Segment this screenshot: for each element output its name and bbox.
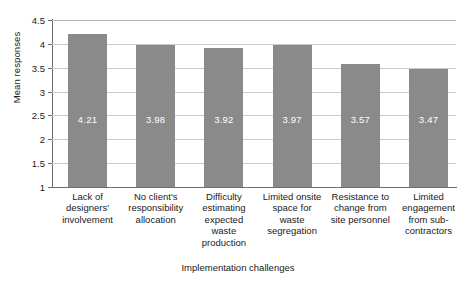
- gridline: [52, 92, 456, 93]
- gridline: [52, 68, 456, 69]
- plot-area: 11.522.533.544.54.213.983.923.973.573.47: [52, 20, 456, 187]
- y-tick-mark: [48, 20, 52, 21]
- x-category-label: Limitedengagementfrom sub-contractors: [390, 191, 468, 237]
- y-tick-label: 2.5: [32, 110, 45, 121]
- y-tick-label: 1.5: [32, 158, 45, 169]
- gridline: [52, 44, 456, 45]
- bar-value-label: 3.98: [136, 114, 175, 125]
- y-tick-mark: [48, 187, 52, 188]
- x-axis-line: [52, 187, 457, 188]
- bar-value-label: 4.21: [68, 114, 107, 125]
- y-axis-title: Mean responses: [11, 8, 22, 128]
- bar-value-label: 3.57: [341, 114, 380, 125]
- bar[interactable]: [341, 64, 380, 187]
- y-tick-mark: [48, 92, 52, 93]
- x-axis-title: Implementation challenges: [0, 262, 476, 273]
- y-tick-label: 4.5: [32, 15, 45, 26]
- bar-value-label: 3.92: [204, 114, 243, 125]
- y-tick-mark: [48, 44, 52, 45]
- y-tick-label: 3.5: [32, 62, 45, 73]
- x-category-label: No client'sresponsibilityallocation: [117, 191, 195, 225]
- y-tick-label: 3: [40, 86, 45, 97]
- y-tick-label: 1: [40, 182, 45, 193]
- gridline: [52, 20, 456, 21]
- gridline: [52, 139, 456, 140]
- y-tick-mark: [48, 68, 52, 69]
- y-tick-mark: [48, 163, 52, 164]
- x-category-label: Lack ofdesigners'involvement: [49, 191, 127, 225]
- bar[interactable]: [68, 34, 107, 187]
- bar-value-label: 3.97: [273, 114, 312, 125]
- x-category-label: Difficultyestimatingexpectedwasteproduct…: [185, 191, 263, 248]
- y-tick-label: 2: [40, 134, 45, 145]
- y-tick-mark: [48, 139, 52, 140]
- x-category-label: Limited onsitespace forwastesegregation: [253, 191, 331, 237]
- bar[interactable]: [409, 69, 448, 187]
- x-category-label: Resistance tochange fromsite personnel: [321, 191, 399, 225]
- y-tick-mark: [48, 115, 52, 116]
- y-tick-label: 4: [40, 38, 45, 49]
- gridline: [52, 163, 456, 164]
- gridline: [52, 115, 456, 116]
- bar-value-label: 3.47: [409, 114, 448, 125]
- bar-chart-figure: Mean responses 11.522.533.544.54.213.983…: [0, 0, 476, 293]
